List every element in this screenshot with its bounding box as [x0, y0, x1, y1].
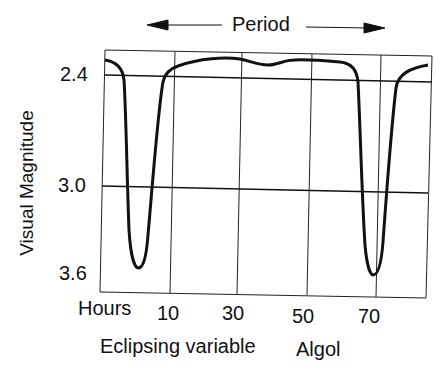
period-label: Period: [232, 13, 290, 36]
y-tick-3-0: 3.0: [58, 174, 86, 197]
y-axis-title: Visual Magnitude: [16, 98, 38, 268]
x-axis-hours-label: Hours: [78, 297, 131, 320]
x-tick-50: 50: [292, 305, 314, 328]
caption-left: Eclipsing variable: [100, 335, 256, 358]
y-tick-2-4: 2.4: [60, 63, 88, 86]
caption-right: Algol: [296, 338, 340, 361]
y-gridlines: [102, 75, 432, 193]
x-tick-70: 70: [358, 305, 380, 328]
x-tick-30: 30: [222, 302, 244, 325]
plot-frame: [100, 50, 432, 298]
y-tick-3-6: 3.6: [59, 262, 87, 285]
x-tick-10: 10: [157, 302, 179, 325]
light-curve: [105, 58, 428, 275]
x-gridlines: [170, 52, 381, 297]
